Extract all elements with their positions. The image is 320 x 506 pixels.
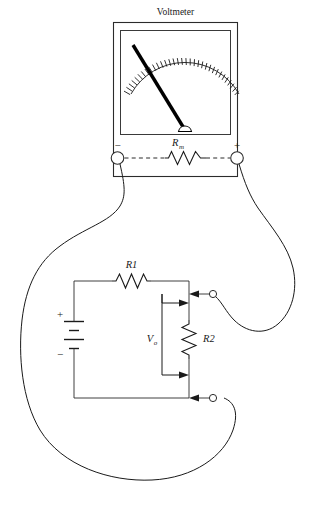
resistor-r1-symbol [112,274,151,288]
output-voltage-label: Vo [147,333,158,347]
meter-internal-resistor [165,152,206,165]
circuit-under-test: R1 + − R2 [57,259,217,402]
probe-top-terminal[interactable] [209,290,216,297]
probe-top-arrowhead [189,291,199,298]
meter-internal-resistance-label: Rm [171,137,184,151]
meter-internal-branch: − + Rm [111,137,243,165]
meter-face-panel [121,31,231,135]
vo-subscript: o [154,339,158,347]
meter-positive-terminal-label: + [234,139,240,151]
probe-connections [189,290,217,401]
vo-arrow-top-head [179,300,189,307]
resistor-r2-symbol [182,320,196,359]
probe-bottom-terminal[interactable] [209,394,216,401]
probe-bottom-arrowhead [189,395,199,402]
voltmeter-circuit-figure: Voltmeter − + Rm [0,0,320,506]
positive-lead-wire [215,164,295,331]
vo-arrow-bottom-line [162,294,180,375]
rm-base: R [171,137,179,148]
vo-arrow-top-line [162,294,180,303]
battery-symbol [64,320,84,358]
vo-measurement-bracket [162,294,189,378]
negative-lead-wire [21,164,236,480]
circuit-diagram-canvas: Voltmeter − + Rm [0,0,320,506]
resistor-r1-label: R1 [125,259,138,270]
vo-arrow-bottom-head [179,372,189,379]
meter-positive-terminal[interactable] [231,152,244,165]
battery-negative-label: − [57,348,63,360]
meter-lead-wires [21,164,295,480]
battery-positive-label: + [57,308,63,320]
meter-title-label: Voltmeter [157,7,195,17]
resistor-r2-label: R2 [202,333,215,344]
meter-negative-terminal-label: − [114,139,120,151]
rm-subscript: m [179,143,184,151]
meter-negative-terminal[interactable] [111,152,124,165]
